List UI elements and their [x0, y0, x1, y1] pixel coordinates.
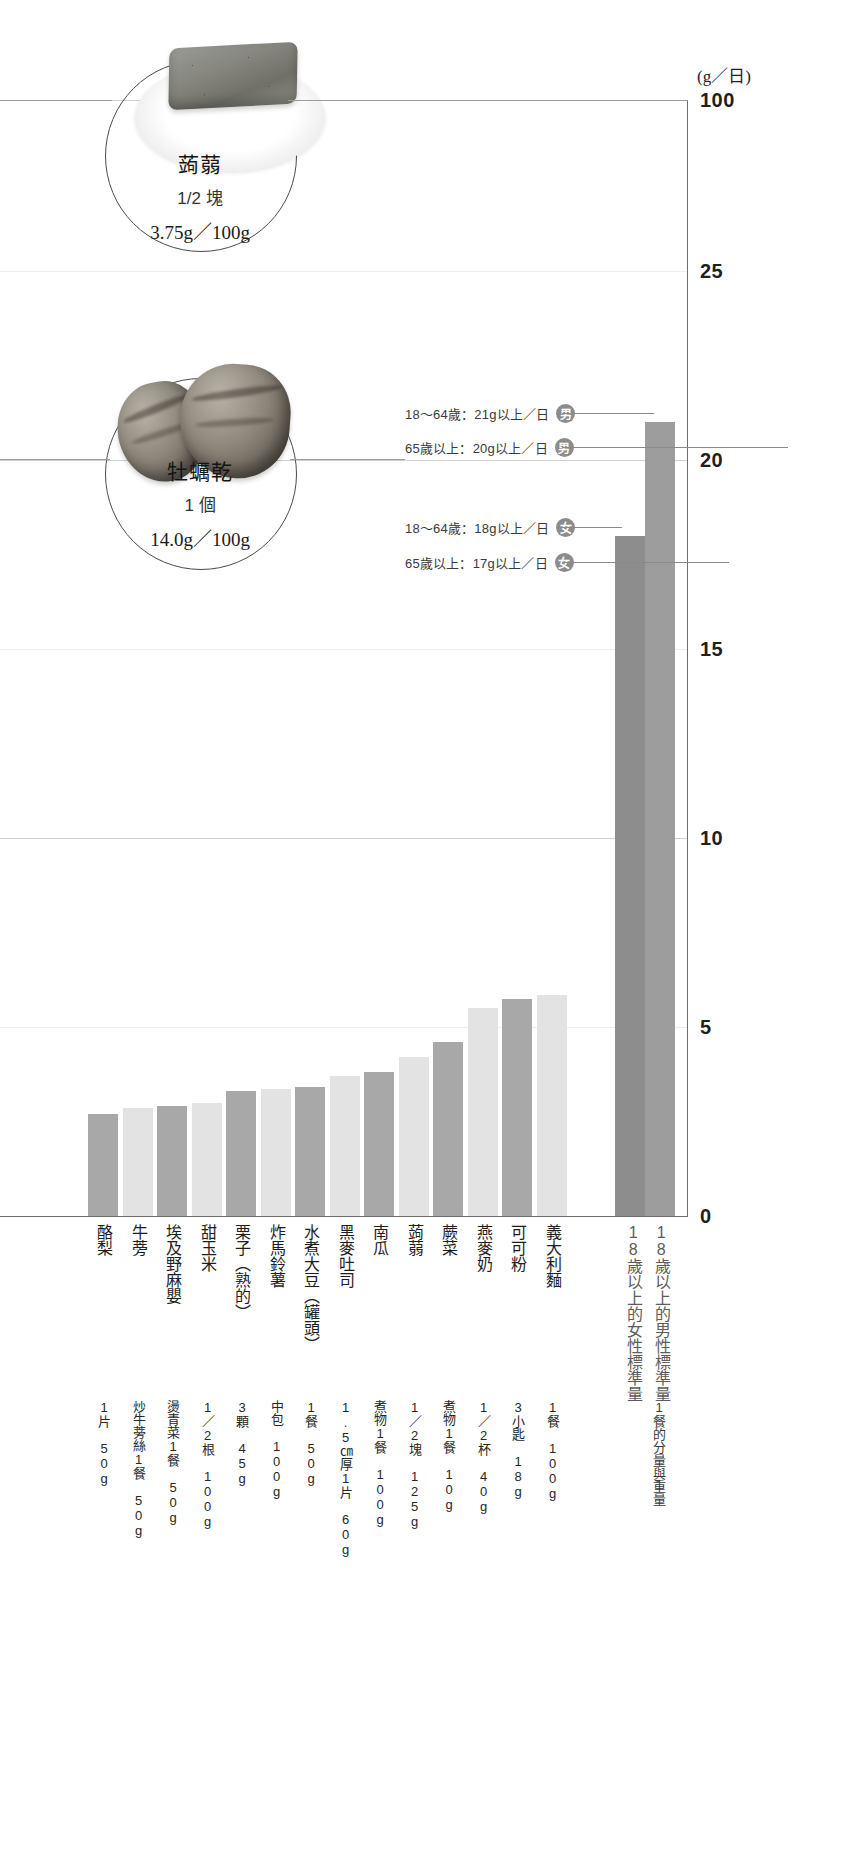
standard-column	[645, 422, 675, 1216]
bar	[123, 1108, 153, 1216]
leader-konjac-left	[0, 100, 112, 101]
leader-line-male-18-64	[562, 413, 654, 414]
bar	[468, 1008, 498, 1216]
serving-label: 3小匙 18g	[511, 1400, 525, 1499]
serving-note: 1餐的分量與重量	[652, 1400, 666, 1506]
callout-oyster-name: 牡蠣乾	[105, 455, 295, 485]
serving-label: 1.5㎝厚1片 60g	[339, 1400, 353, 1557]
category-label: 水煮大豆（罐頭）	[302, 1224, 318, 1352]
category-label: 甜玉米	[199, 1224, 215, 1272]
bar	[364, 1072, 394, 1216]
callout-oyster-text: 牡蠣乾 1 個 14.0g／100g	[105, 455, 295, 551]
y-tick-5: 5	[700, 1017, 712, 1037]
standard-column	[615, 536, 645, 1216]
serving-label: 燙青菜1餐 50g	[166, 1400, 180, 1525]
bars-container	[0, 100, 688, 1216]
serving-label: 煮物1餐 10g	[442, 1400, 456, 1512]
bar	[192, 1103, 222, 1216]
y-tick-15: 15	[700, 639, 723, 659]
serving-label: 3顆 45g	[235, 1400, 249, 1486]
annotation-female-18-64-text: 18〜64歲：18g以上／日	[405, 518, 549, 537]
serving-label: 1／2根 100g	[201, 1400, 215, 1529]
annotation-male-18-64: 18〜64歲：21g以上／日 男	[405, 404, 575, 423]
y-tick-100: 100	[700, 90, 735, 110]
serving-label: 炒牛蒡絲1餐 50g	[132, 1400, 146, 1538]
serving-label: 1／2杯 40g	[477, 1400, 491, 1514]
category-label: 栗子（熟的）	[233, 1224, 249, 1320]
category-label: 可可粉	[509, 1224, 525, 1272]
category-label: 牛蒡	[130, 1224, 146, 1256]
category-label: 黑麥吐司	[337, 1224, 353, 1288]
callout-konjac-qty: 1/2 塊	[105, 184, 295, 209]
fiber-chart-page: (g／日) 1002520151050 酪梨牛蒡埃及野麻嬰甜玉米栗子（熟的）炸馬…	[0, 0, 868, 1869]
callout-konjac-text: 蒟蒻 1/2 塊 3.75g／100g	[105, 148, 295, 244]
annotation-female-65-text: 65歲以上：17g以上／日	[405, 553, 548, 572]
bar	[157, 1106, 187, 1216]
serving-label: 1片 50g	[97, 1400, 111, 1486]
category-label: 酪梨	[95, 1224, 111, 1256]
category-label: 蕨菜	[440, 1224, 456, 1256]
bar	[399, 1057, 429, 1216]
bar	[226, 1091, 256, 1216]
y-tick-20: 20	[700, 450, 723, 470]
standard-label-female: 18歲以上的女性標準量	[624, 1224, 641, 1402]
serving-label: 1餐 100g	[546, 1400, 560, 1501]
serving-label: 煮物1餐 100g	[373, 1400, 387, 1527]
callout-oyster-qty: 1 個	[105, 491, 295, 516]
y-tick-0: 0	[700, 1206, 712, 1226]
leader-line-female-65	[562, 562, 729, 563]
bar	[502, 999, 532, 1216]
leader-oyster-left	[0, 459, 110, 460]
y-axis-unit-label: (g／日)	[697, 62, 751, 87]
annotation-female-65: 65歲以上：17g以上／日 女	[405, 553, 574, 572]
serving-label: 1餐 50g	[304, 1400, 318, 1486]
bar	[261, 1089, 291, 1216]
callout-konjac-value: 3.75g／100g	[105, 217, 295, 244]
serving-label: 中包 100g	[270, 1400, 284, 1499]
category-label: 燕麥奶	[475, 1224, 491, 1272]
category-label: 炸馬鈴薯	[268, 1224, 284, 1288]
leader-line-male-65	[562, 447, 788, 448]
category-label: 蒟蒻	[406, 1224, 422, 1256]
serving-label: 1／2塊 125g	[408, 1400, 422, 1529]
leader-konjac-right	[288, 100, 688, 101]
leader-oyster-right	[290, 459, 405, 460]
leader-line-female-18-64	[562, 527, 622, 528]
annotation-female-18-64: 18〜64歲：18g以上／日 女	[405, 518, 575, 537]
y-tick-10: 10	[700, 828, 723, 848]
annotation-male-65-text: 65歲以上：20g以上／日	[405, 438, 548, 457]
bar	[330, 1076, 360, 1216]
y-tick-25: 25	[700, 261, 723, 281]
annotation-male-18-64-text: 18〜64歲：21g以上／日	[405, 404, 549, 423]
callout-konjac-name: 蒟蒻	[105, 148, 295, 178]
bar	[537, 995, 567, 1216]
bar	[295, 1087, 325, 1216]
bar	[433, 1042, 463, 1216]
standard-label-male: 18歲以上的男性標準量	[652, 1224, 669, 1402]
annotation-male-65: 65歲以上：20g以上／日 男	[405, 438, 574, 457]
category-label: 南瓜	[371, 1224, 387, 1256]
callout-oyster-value: 14.0g／100g	[105, 524, 295, 551]
category-label: 埃及野麻嬰	[164, 1224, 180, 1304]
x-axis-baseline	[0, 1216, 688, 1217]
category-label: 義大利麵	[544, 1224, 560, 1288]
bar	[88, 1114, 118, 1216]
